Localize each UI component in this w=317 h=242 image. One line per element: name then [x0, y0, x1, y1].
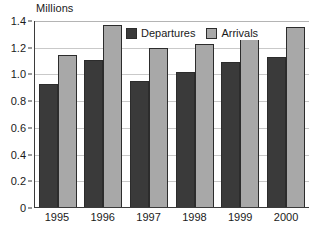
y-axis-tick-label: 1.4: [11, 16, 26, 27]
bar-arrivals-2000[interactable]: [286, 27, 305, 207]
bar-departures-1997[interactable]: [130, 81, 149, 207]
legend-swatch-icon: [206, 28, 217, 39]
plot-area: [34, 21, 309, 208]
x-axis-tick-labels: 199519961997199819992000: [34, 212, 309, 234]
y-axis-tick-mark: [28, 181, 32, 182]
bar-group: [267, 21, 305, 207]
bar-chart: Millions 00.20.40.60.81.01.21.4 19951996…: [0, 0, 317, 242]
x-axis-tick-label: 1999: [220, 212, 260, 223]
y-axis-tick-label: 0.6: [11, 122, 26, 133]
bar-departures-2000[interactable]: [267, 57, 286, 207]
y-axis-tick-mark: [28, 127, 32, 128]
legend-label: Arrivals: [221, 28, 258, 39]
y-axis-tick-label: 0.8: [11, 96, 26, 107]
bar-departures-1995[interactable]: [39, 84, 58, 207]
bar-departures-1999[interactable]: [221, 62, 240, 207]
bar-arrivals-1998[interactable]: [195, 44, 214, 207]
y-axis-tick-label: 1.2: [11, 42, 26, 53]
legend-entry-arrivals[interactable]: Arrivals: [206, 28, 258, 39]
x-axis-tick-label: 2000: [266, 212, 306, 223]
legend-label: Departures: [141, 28, 195, 39]
bar-arrivals-1996[interactable]: [103, 25, 122, 207]
x-axis-tick-label: 1998: [174, 212, 214, 223]
x-axis-tick-label: 1997: [129, 212, 169, 223]
bar-group: [130, 21, 168, 207]
y-axis-unit-caption: Millions: [36, 2, 73, 14]
y-axis-tick-label: 1.0: [11, 69, 26, 80]
y-axis-tick-mark: [28, 101, 32, 102]
y-axis-tick-labels: 00.20.40.60.81.01.21.4: [0, 21, 32, 208]
legend-swatch-icon: [126, 28, 137, 39]
y-axis-tick-mark: [28, 154, 32, 155]
bar-group: [84, 21, 122, 207]
y-axis-tick-mark: [28, 47, 32, 48]
y-axis-tick-mark: [28, 208, 32, 209]
legend-entry-departures[interactable]: Departures: [126, 28, 195, 39]
bar-group: [176, 21, 214, 207]
chart-legend: DeparturesArrivals: [124, 27, 260, 40]
bar-group: [221, 21, 259, 207]
y-axis-tick-mark: [28, 74, 32, 75]
bar-arrivals-1999[interactable]: [240, 31, 259, 207]
x-axis-tick-label: 1996: [83, 212, 123, 223]
bar-departures-1996[interactable]: [84, 60, 103, 207]
y-axis-tick-label: 0.4: [11, 149, 26, 160]
bar-arrivals-1997[interactable]: [149, 48, 168, 207]
bar-departures-1998[interactable]: [176, 72, 195, 207]
bar-group: [39, 21, 77, 207]
x-axis-tick-label: 1995: [37, 212, 77, 223]
y-axis-tick-label: 0.2: [11, 176, 26, 187]
bar-arrivals-1995[interactable]: [58, 55, 77, 207]
bars-layer: [35, 21, 309, 207]
y-axis-tick-label: 0: [20, 203, 26, 214]
y-axis-tick-mark: [28, 21, 32, 22]
